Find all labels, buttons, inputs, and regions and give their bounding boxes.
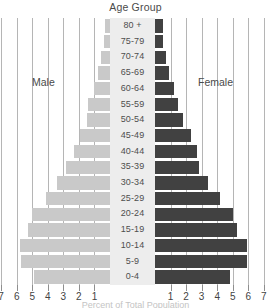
bar-male-4549 xyxy=(80,129,110,142)
legend-male: Male xyxy=(32,76,55,88)
bar-female-3034 xyxy=(155,176,208,189)
bar-female-3539 xyxy=(155,161,199,174)
bar-male-7074 xyxy=(101,51,110,64)
bar-male-04 xyxy=(34,270,110,283)
bar-female-6064 xyxy=(155,82,174,95)
bar-female-59 xyxy=(155,255,247,268)
bar-male-6064 xyxy=(94,82,110,95)
plot-area: 80 +75-7970-7465-6960-6455-5950-5445-494… xyxy=(0,18,271,285)
bar-male-1519 xyxy=(28,223,110,236)
age-group-label: 45-49 xyxy=(110,128,155,144)
age-group-label: 10-14 xyxy=(110,238,155,254)
age-group-label: 15-19 xyxy=(110,222,155,238)
bar-female-5559 xyxy=(155,98,178,111)
bar-male-5559 xyxy=(88,98,110,111)
bar-female-1014 xyxy=(155,239,247,252)
age-group-label: 55-59 xyxy=(110,97,155,113)
population-pyramid-chart: Age Group 80 +75-7970-7465-6960-6455-595… xyxy=(0,0,271,308)
bar-male-3034 xyxy=(57,176,110,189)
bar-male-2024 xyxy=(32,208,110,221)
bar-female-7579 xyxy=(155,35,163,48)
age-group-label: 40-44 xyxy=(110,144,155,160)
chart-title: Age Group xyxy=(0,1,271,13)
age-group-label: 5-9 xyxy=(110,254,155,270)
age-group-label: 65-69 xyxy=(110,65,155,81)
age-group-label: 20-24 xyxy=(110,206,155,222)
age-group-label: 60-64 xyxy=(110,81,155,97)
age-group-label: 35-39 xyxy=(110,159,155,175)
bar-female-04 xyxy=(155,270,230,283)
age-group-label: 0-4 xyxy=(110,269,155,285)
bar-male-2529 xyxy=(46,192,110,205)
bar-male-4044 xyxy=(74,145,110,158)
bar-female-2529 xyxy=(155,192,220,205)
bar-female-1519 xyxy=(155,223,237,236)
bar-male-6569 xyxy=(98,66,110,79)
age-group-label: 80 + xyxy=(110,18,155,34)
age-group-label: 25-29 xyxy=(110,191,155,207)
bar-female-7074 xyxy=(155,51,166,64)
bar-male-59 xyxy=(21,255,110,268)
bar-male-3539 xyxy=(66,161,110,174)
bar-female-5054 xyxy=(155,113,183,126)
age-group-label: 30-34 xyxy=(110,175,155,191)
bar-female-4044 xyxy=(155,145,197,158)
legend-female: Female xyxy=(198,76,233,88)
bar-female-4549 xyxy=(155,129,191,142)
bar-female-80 xyxy=(155,19,163,32)
bar-male-5054 xyxy=(87,113,110,126)
bar-female-2024 xyxy=(155,208,233,221)
bar-male-1014 xyxy=(20,239,110,252)
bar-female-6569 xyxy=(155,66,169,79)
x-axis-title: Percent of Total Population xyxy=(0,301,271,308)
age-group-label: 75-79 xyxy=(110,34,155,50)
age-group-label: 70-74 xyxy=(110,49,155,65)
age-group-label: 50-54 xyxy=(110,112,155,128)
